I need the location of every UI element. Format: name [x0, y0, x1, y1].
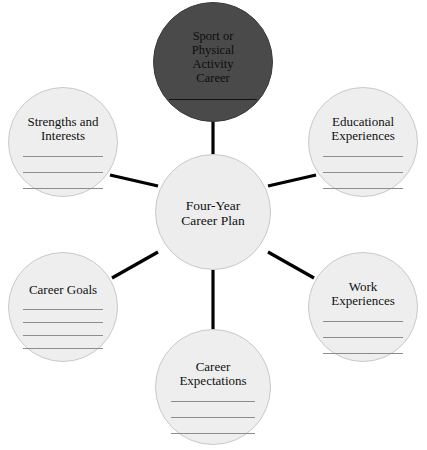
write-in-line[interactable] — [323, 156, 403, 157]
write-in-line[interactable] — [23, 188, 103, 189]
node-label-strengths-interests: Strengths and Interests — [27, 115, 98, 144]
write-in-lines-career-expectations — [156, 401, 270, 434]
write-in-line[interactable] — [23, 335, 103, 336]
write-in-line[interactable] — [171, 401, 255, 402]
write-in-line[interactable] — [23, 172, 103, 173]
node-label-career-goals: Career Goals — [29, 283, 97, 298]
write-in-line[interactable] — [23, 156, 103, 157]
node-educational-experiences[interactable]: Educational Experiences — [308, 87, 418, 197]
connector-hub-to-work — [268, 252, 314, 278]
node-label-work-experiences: Work Experiences — [331, 280, 395, 309]
write-in-line[interactable] — [323, 188, 403, 189]
connector-hub-to-strengths — [110, 175, 158, 186]
write-in-line[interactable] — [171, 417, 255, 418]
write-in-line[interactable] — [323, 321, 403, 322]
node-career-expectations[interactable]: Career Expectations — [155, 329, 271, 445]
write-in-line[interactable] — [23, 309, 103, 310]
write-in-line[interactable] — [323, 172, 403, 173]
node-label-hub: Four-Year Career Plan — [181, 198, 244, 228]
connector-hub-to-career-goals — [112, 252, 158, 278]
write-in-lines-career-goals — [9, 309, 117, 349]
node-hub[interactable]: Four-Year Career Plan — [155, 154, 271, 270]
node-label-educational-experiences: Educational Experiences — [331, 115, 395, 144]
career-plan-diagram: Sport or Physical Activity CareerFour-Ye… — [0, 0, 427, 450]
write-in-line[interactable] — [23, 348, 103, 349]
write-in-lines-work-experiences — [309, 321, 417, 354]
write-in-line[interactable] — [169, 99, 257, 100]
write-in-line[interactable] — [323, 337, 403, 338]
node-work-experiences[interactable]: Work Experiences — [308, 252, 418, 362]
node-label-career-expectations: Career Expectations — [179, 360, 246, 389]
node-strengths-interests[interactable]: Strengths and Interests — [8, 87, 118, 197]
write-in-line[interactable] — [171, 433, 255, 434]
write-in-lines-educational-experiences — [309, 156, 417, 189]
write-in-lines-strengths-interests — [9, 156, 117, 189]
write-in-line[interactable] — [23, 322, 103, 323]
write-in-lines-sport-career — [154, 99, 272, 100]
node-career-goals[interactable]: Career Goals — [8, 252, 118, 362]
node-label-sport-career: Sport or Physical Activity Career — [192, 29, 234, 85]
node-sport-career[interactable]: Sport or Physical Activity Career — [153, 2, 273, 122]
write-in-line[interactable] — [323, 353, 403, 354]
